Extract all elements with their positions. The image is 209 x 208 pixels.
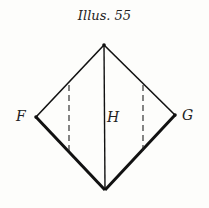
- label-f: F: [16, 108, 26, 124]
- label-g: G: [182, 107, 193, 123]
- illustration: Illus. 55 F H G: [0, 0, 209, 208]
- label-h: H: [107, 109, 119, 125]
- diamond-diagram: [0, 0, 209, 208]
- center-line: [104, 45, 105, 190]
- edge-bottom-left: [36, 117, 105, 190]
- edge-bottom-right: [105, 115, 175, 190]
- edge-top-right: [104, 45, 175, 115]
- edge-top-left: [36, 45, 104, 117]
